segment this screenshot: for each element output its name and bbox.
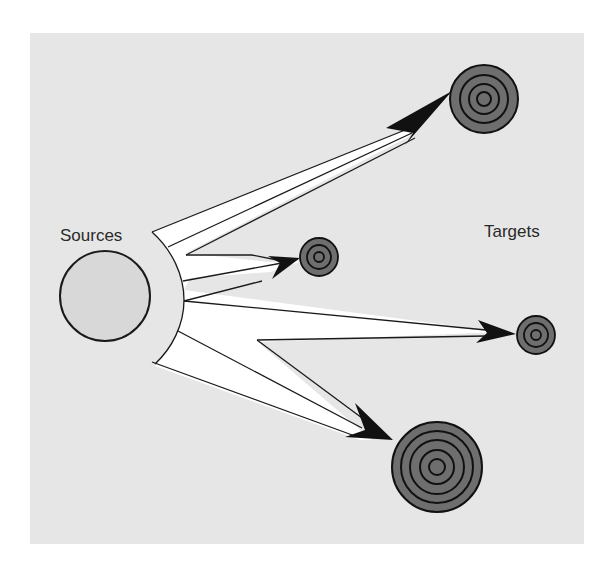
sources-label: Sources (60, 226, 122, 246)
target-right-small (517, 316, 555, 354)
target-bottom-large (392, 422, 482, 512)
target-top-large (450, 65, 518, 133)
target-middle-small (300, 238, 338, 276)
fan-region (152, 128, 500, 440)
source-circle (60, 251, 150, 341)
sources-targets-diagram (0, 0, 607, 564)
targets-label: Targets (484, 222, 540, 242)
